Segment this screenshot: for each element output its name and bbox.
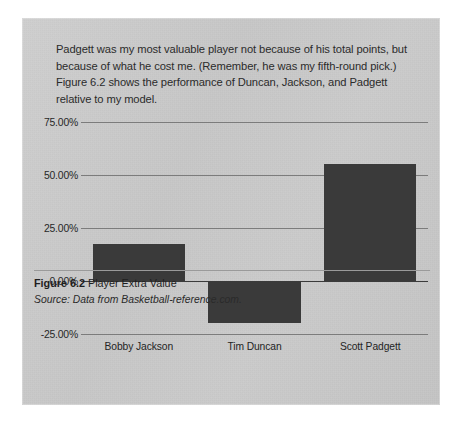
caption-source-line: Source: Data from Basketball-reference.c… <box>34 292 426 307</box>
x-axis-category-label: Scott Padgett <box>312 341 428 352</box>
body-paragraph: Padgett was my most valuable player not … <box>56 41 424 107</box>
y-axis-tick-label: -25.00% <box>20 329 78 340</box>
y-axis-tick-label: 50.00% <box>20 170 78 181</box>
caption-divider <box>34 270 430 271</box>
gridline <box>81 334 428 335</box>
caption-title-line: Figure 6.2 Player Extra Value <box>34 276 426 291</box>
bar-chart: 75.00%50.00%25.00%0.00%-25.00% Bobby Jac… <box>22 114 440 356</box>
caption-figure-title: Player Extra Value <box>88 277 177 289</box>
scanned-page-panel: Padgett was my most valuable player not … <box>22 18 440 405</box>
y-axis-tick-label: 25.00% <box>20 223 78 234</box>
bar <box>324 164 417 281</box>
caption-figure-number: Figure 6.2 <box>34 277 85 289</box>
x-axis-category-label: Bobby Jackson <box>81 341 197 352</box>
figure-caption: Figure 6.2 Player Extra Value Source: Da… <box>34 276 426 307</box>
y-axis-tick-label: 75.00% <box>20 117 78 128</box>
x-axis-category-label: Tim Duncan <box>197 341 313 352</box>
